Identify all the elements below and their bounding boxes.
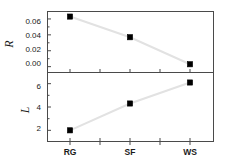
y-tick-label-top-0: 0.06 — [13, 18, 41, 26]
y-tick-label-top-3: 0.00 — [13, 60, 41, 68]
y-tick-label-top-1: 0.04 — [13, 32, 41, 40]
x-tick-label-sf: SF — [115, 148, 145, 157]
plot-panel-top — [47, 11, 214, 73]
x-tick-label-rg: RG — [55, 148, 85, 157]
y-tick-label-bottom-1: 4 — [27, 104, 41, 112]
y-tick-label-top-2: 0.02 — [13, 46, 41, 54]
y-tick-label-bottom-2: 2 — [27, 125, 41, 133]
x-tick-label-ws: WS — [175, 148, 205, 157]
plot-panel-bottom — [47, 72, 214, 142]
y-tick-label-bottom-0: 6 — [27, 83, 41, 91]
chart-figure: R L 0.06 0.04 0.02 0.00 6 4 2 RG SF WS — [0, 0, 227, 165]
